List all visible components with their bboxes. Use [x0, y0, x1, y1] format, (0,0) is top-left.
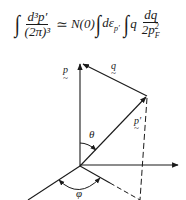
theta-label: θ	[89, 128, 95, 140]
lower-left-axis-line	[28, 166, 80, 200]
momentum-vector-diagram: p ~ q ~ p′ ~ θ φ	[0, 0, 186, 200]
projection-line-dashed	[110, 183, 140, 200]
phi-label: φ	[76, 187, 82, 199]
projection-line-solid	[80, 166, 110, 183]
q-label-tilde: ~	[111, 68, 116, 78]
p-prime-drop-dashed-line	[140, 98, 147, 200]
theta-arc	[80, 143, 96, 150]
p-prime-label-tilde: ~	[134, 123, 139, 133]
p-label-tilde: ~	[63, 73, 68, 83]
